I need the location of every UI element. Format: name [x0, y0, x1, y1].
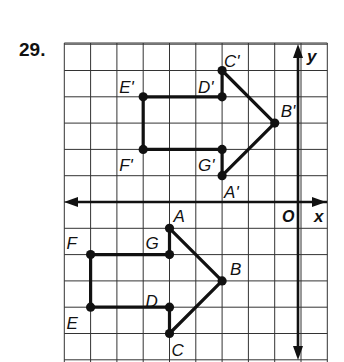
vertex-label-f-prime: F' [119, 156, 133, 175]
vertex-point-d [165, 303, 174, 312]
vertex-point-b [218, 276, 227, 285]
vertex-label-g: G [146, 234, 159, 253]
vertex-label-b-prime: B' [281, 102, 296, 121]
vertex-point-g-prime [218, 145, 227, 154]
vertex-label-a-prime: A' [223, 183, 239, 202]
vertex-label-b: B [230, 260, 241, 279]
vertex-point-f-prime [139, 145, 148, 154]
vertex-label-f: F [67, 234, 79, 253]
vertex-label-c-prime: C' [224, 52, 240, 71]
vertex-label-c: C [172, 341, 185, 360]
vertex-label-e: E [67, 314, 79, 333]
vertex-label-e-prime: E' [119, 78, 134, 97]
vertex-label-d: D [146, 292, 158, 311]
vertex-point-d-prime [218, 92, 227, 101]
vertex-point-g [165, 250, 174, 259]
origin-label: O [282, 208, 295, 225]
vertex-point-c [165, 329, 174, 338]
vertex-point-a-prime [218, 171, 227, 180]
vertex-point-e [86, 303, 95, 312]
y-axis-label: y [306, 47, 318, 66]
vertex-point-e-prime [139, 92, 148, 101]
coordinate-grid-figure: x y O ABCDEFGA'B'C'D'E'F'G' [0, 0, 344, 362]
x-axis-right-arrow-icon [312, 197, 326, 207]
vertex-label-g-prime: G' [198, 156, 215, 175]
vertex-point-f [86, 250, 95, 259]
x-axis-left-arrow-icon [64, 197, 78, 207]
vertex-label-a: A [173, 207, 185, 226]
vertex-point-b-prime [270, 119, 279, 128]
x-axis-label: x [313, 207, 325, 226]
vertex-label-d-prime: D' [198, 78, 214, 97]
